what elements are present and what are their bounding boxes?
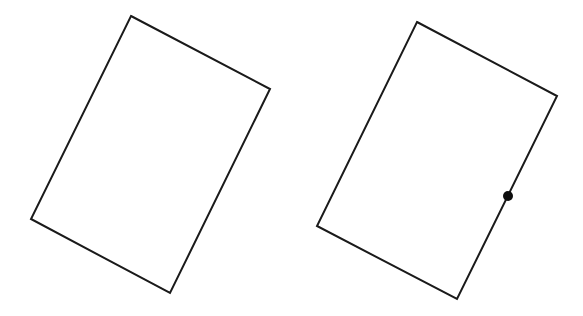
edge-point-marker: [503, 191, 513, 201]
left-rectangle: [31, 16, 270, 293]
right-rectangle: [317, 22, 557, 299]
diagram-canvas: [0, 0, 583, 316]
